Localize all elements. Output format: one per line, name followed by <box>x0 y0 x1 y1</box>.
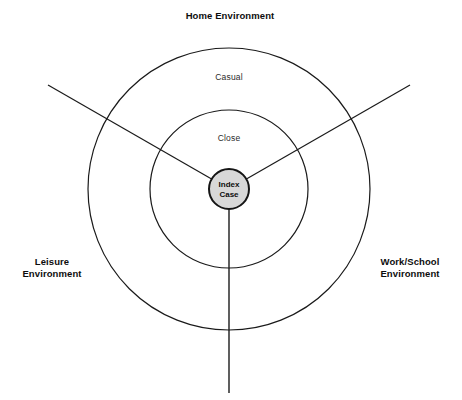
environment-label-work-school-line1: Work/School <box>380 256 439 268</box>
environment-label-home: Home Environment <box>186 10 275 22</box>
concentric-environment-diagram: Index Case Close Casual Home Environment… <box>0 0 462 400</box>
divider-line-work-school <box>229 85 410 189</box>
environment-label-home-text: Home Environment <box>186 10 275 22</box>
environment-label-leisure-line2: Environment <box>22 268 81 280</box>
environment-label-leisure: Leisure Environment <box>22 256 81 280</box>
diagram-canvas <box>0 0 462 400</box>
divider-line-leisure <box>48 85 229 189</box>
environment-label-work-school: Work/School Environment <box>380 256 439 280</box>
environment-label-work-school-line2: Environment <box>380 268 439 280</box>
environment-label-leisure-line1: Leisure <box>22 256 81 268</box>
index-case-node <box>209 169 249 209</box>
